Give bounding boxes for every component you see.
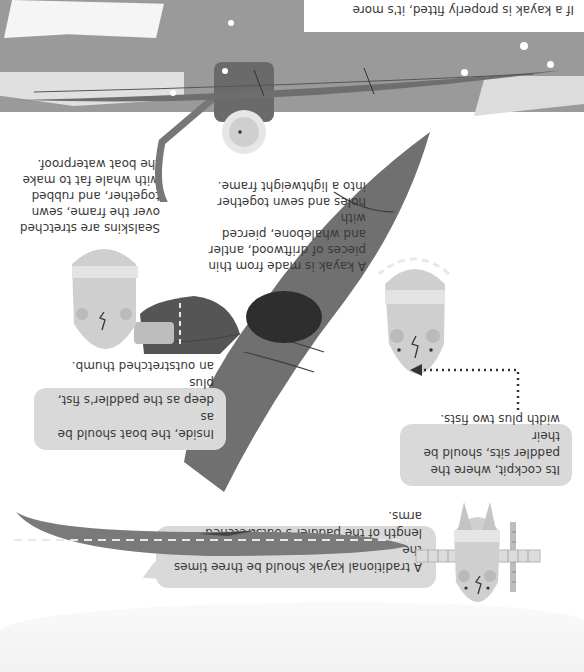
kayak-side-view xyxy=(8,512,408,582)
bubble-depth-line-1: Inside, the boat should be as xyxy=(46,408,214,442)
caption-frame-line-3: and whalebone, pierced with xyxy=(196,210,366,242)
bubble-cockpit-line-1: Its cockpit, where the xyxy=(412,461,560,478)
snowflake xyxy=(520,42,528,50)
snowflake xyxy=(170,90,176,96)
kayak-infographic-page: A traditional kayak should be three time… xyxy=(0,0,584,672)
speech-bubble-cockpit: Its cockpit, where the paddler sits, sho… xyxy=(400,424,572,486)
snowflake xyxy=(222,68,228,74)
kayak-on-sea xyxy=(14,64,564,104)
speech-bubble-depth: Inside, the boat should be as deep as th… xyxy=(34,388,226,450)
caption-sealskins-line-2: over the frame, sewn xyxy=(10,204,160,220)
bubble-cockpit-line-3: width plus two fists. xyxy=(412,410,560,427)
ice-floe-bottom xyxy=(4,0,164,38)
caption-frame-line-1: A kayak is made from thin xyxy=(196,258,366,274)
paddler-arms-outstretched xyxy=(408,492,548,642)
caption-fitted-line-1: If a kayak is properly fitted, it's more xyxy=(304,2,574,18)
snowflake xyxy=(228,20,234,26)
dotted-arrow-connector xyxy=(402,360,522,410)
caption-sealskins-line-1: Sealskins are stretched xyxy=(10,220,160,236)
caption-fitted: If a kayak is properly fitted, it's more xyxy=(304,2,574,18)
bubble-cockpit-line-2: paddler sits, should be their xyxy=(412,427,560,461)
caption-frame-line-2: pieces of driftwood, antler xyxy=(196,242,366,258)
snowflake xyxy=(547,61,554,68)
snowflake xyxy=(461,69,468,76)
bubble-depth-line-2: deep as the paddler's fist, plus xyxy=(46,374,214,408)
